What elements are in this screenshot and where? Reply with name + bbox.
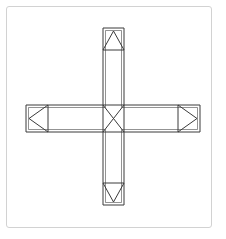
screenshot-canvas <box>0 0 226 239</box>
cross-diagram <box>0 0 226 239</box>
cross-outer-outline <box>26 28 200 205</box>
cross-outline-group <box>26 28 200 205</box>
